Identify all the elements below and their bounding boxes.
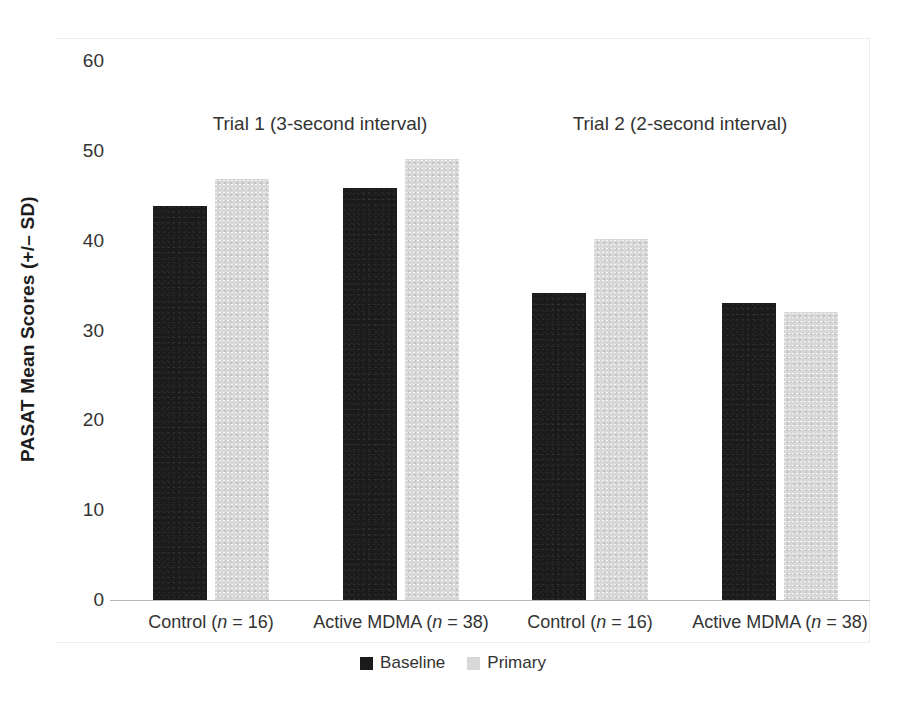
n-italic: n xyxy=(217,612,227,632)
n-italic: n xyxy=(811,612,821,632)
legend-swatch-baseline-icon xyxy=(360,657,373,670)
chart-legend: Baseline Primary xyxy=(0,653,906,673)
bar-trial1-mdma-primary xyxy=(405,159,459,601)
y-tick-30: 30 xyxy=(58,320,104,342)
pasat-bar-chart-figure: PASAT Mean Scores (+/– SD) 60 50 40 30 2… xyxy=(0,0,906,719)
bar-trial2-mdma-primary xyxy=(784,312,838,601)
x-label-value: = 38) xyxy=(442,612,489,632)
plot-area xyxy=(110,50,868,601)
legend-label-baseline: Baseline xyxy=(380,653,445,673)
n-italic: n xyxy=(596,612,606,632)
y-tick-50: 50 xyxy=(58,140,104,162)
legend-swatch-primary-icon xyxy=(467,657,480,670)
bar-trial1-control-baseline xyxy=(153,206,207,601)
y-tick-20: 20 xyxy=(58,409,104,431)
x-label-trial2-control: Control (n = 16) xyxy=(527,612,653,633)
x-label-text: Active MDMA ( xyxy=(692,612,811,632)
n-italic: n xyxy=(432,612,442,632)
y-tick-10: 10 xyxy=(58,499,104,521)
x-label-text: Active MDMA ( xyxy=(313,612,432,632)
y-tick-60: 60 xyxy=(58,50,104,72)
x-label-trial1-mdma: Active MDMA (n = 38) xyxy=(313,612,489,633)
x-label-text: Control ( xyxy=(527,612,596,632)
y-axis-title: PASAT Mean Scores (+/– SD) xyxy=(17,69,39,589)
bar-trial1-mdma-baseline xyxy=(343,188,397,601)
x-label-text: Control ( xyxy=(148,612,217,632)
y-tick-40: 40 xyxy=(58,230,104,252)
legend-entry-baseline: Baseline xyxy=(360,653,445,673)
legend-label-primary: Primary xyxy=(487,653,546,673)
x-label-value: = 38) xyxy=(821,612,868,632)
bar-trial2-mdma-baseline xyxy=(722,303,776,601)
x-axis-line xyxy=(110,600,870,601)
x-label-trial1-control: Control (n = 16) xyxy=(148,612,274,633)
bar-trial2-control-baseline xyxy=(532,293,586,601)
legend-entry-primary: Primary xyxy=(467,653,546,673)
x-label-trial2-mdma: Active MDMA (n = 38) xyxy=(692,612,868,633)
bar-trial2-control-primary xyxy=(594,239,648,601)
y-tick-0: 0 xyxy=(58,589,104,611)
bar-trial1-control-primary xyxy=(215,179,269,601)
x-label-value: = 16) xyxy=(606,612,653,632)
x-label-value: = 16) xyxy=(227,612,274,632)
